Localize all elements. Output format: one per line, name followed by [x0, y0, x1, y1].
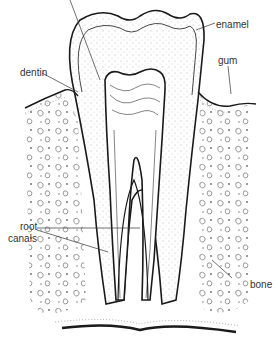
tooth-diagram: [0, 0, 277, 344]
label-bone: bone: [250, 279, 272, 290]
label-enamel: enamel: [216, 19, 249, 30]
label-root: root: [20, 221, 37, 232]
base-line: [62, 325, 236, 332]
bone-left: [25, 92, 86, 314]
label-dentin: dentin: [20, 67, 47, 78]
label-gum: gum: [218, 55, 237, 66]
label-canals: canals: [8, 233, 37, 244]
bone-right: [196, 96, 252, 312]
